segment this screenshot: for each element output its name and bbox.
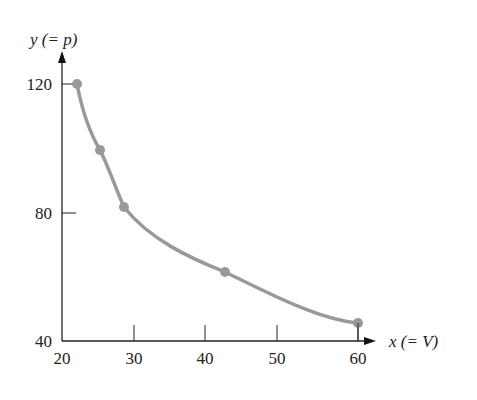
x-tick-label: 50	[269, 349, 286, 368]
chart: 20 30 40 50 60 40 80 120 y (= p) x (= V)	[0, 0, 477, 400]
x-tick-label: 60	[350, 349, 367, 368]
x-tick-label: 40	[197, 349, 214, 368]
x-axis-label: x (= V)	[388, 332, 439, 351]
data-point	[72, 79, 82, 89]
x-tick-label: 30	[126, 349, 143, 368]
y-axis-label: y (= p)	[28, 30, 78, 49]
y-tick-label: 120	[27, 75, 53, 94]
y-tick-label: 40	[35, 332, 52, 351]
x-ticks	[134, 325, 358, 341]
y-tick-label: 80	[35, 204, 52, 223]
y-axis-arrow-icon	[58, 51, 66, 63]
data-point	[119, 202, 129, 212]
y-tick-labels: 40 80 120	[27, 75, 53, 351]
data-point	[220, 267, 230, 277]
y-ticks	[62, 84, 76, 213]
x-axis-arrow-icon	[364, 337, 376, 345]
data-curve	[77, 84, 358, 323]
data-point	[95, 145, 105, 155]
x-tick-label: 20	[54, 349, 71, 368]
data-points	[72, 79, 363, 328]
x-tick-labels: 20 30 40 50 60	[54, 349, 367, 368]
